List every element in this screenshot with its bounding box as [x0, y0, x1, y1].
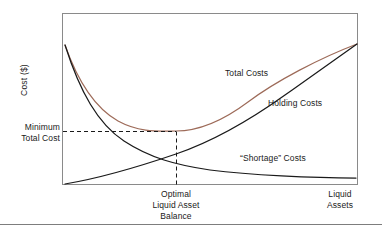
x-tick-optimal-line-3: Balance: [126, 211, 226, 222]
x-axis-title-liquid-assets: Liquid Assets: [305, 189, 375, 211]
x-tick-label-optimal-balance: Optimal Liquid Asset Balance: [126, 189, 226, 222]
x-axis-title-line-1: Liquid: [305, 189, 375, 200]
page-divider-rule: [0, 224, 382, 225]
minimum-total-cost-line-2: Total Cost: [0, 133, 60, 144]
series-label-total-costs: Total Costs: [225, 68, 268, 78]
x-axis-title-line-2: Assets: [305, 200, 375, 211]
x-tick-optimal-line-1: Optimal: [126, 189, 226, 200]
figure-container: Cost ($) Minimum Total Cost Total Costs …: [0, 0, 382, 233]
minimum-total-cost-tick-label: Minimum Total Cost: [0, 122, 60, 144]
y-axis-title: Cost ($): [19, 40, 29, 120]
series-label-holding-costs: Holding Costs: [268, 98, 322, 108]
x-tick-optimal-line-2: Liquid Asset: [126, 200, 226, 211]
series-label-shortage-costs: “Shortage” Costs: [240, 153, 306, 163]
minimum-total-cost-line-1: Minimum: [0, 122, 60, 133]
